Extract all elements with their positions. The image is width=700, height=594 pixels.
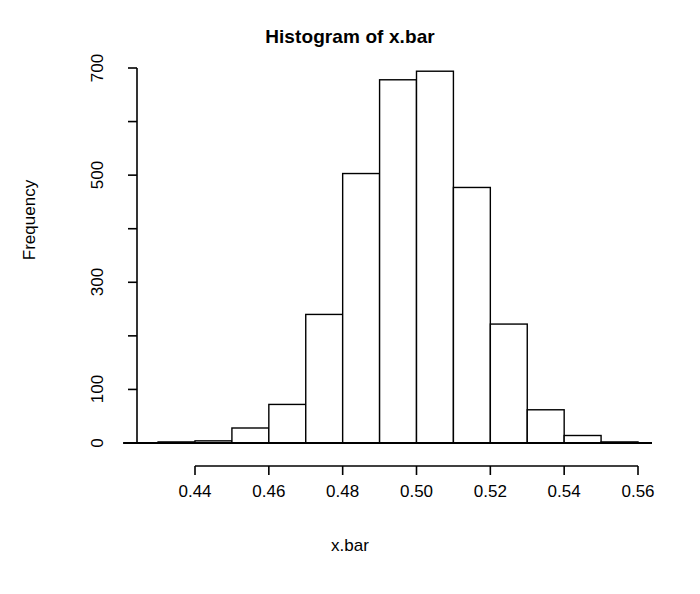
y-tick-label: 0 (88, 413, 108, 473)
x-tick-label: 0.50 (382, 482, 452, 502)
x-tick-label: 0.56 (603, 482, 673, 502)
x-tick-label: 0.44 (160, 482, 230, 502)
y-tick-label: 300 (88, 252, 108, 312)
x-tick-label: 0.54 (529, 482, 599, 502)
histogram-bar (453, 187, 490, 443)
histogram-bar (527, 410, 564, 443)
histogram-bar (417, 71, 454, 443)
histogram-bar (269, 404, 306, 443)
histogram-figure: Histogram of x.bar Frequency x.bar 01003… (0, 0, 700, 594)
x-tick-label: 0.48 (308, 482, 378, 502)
histogram-bar (343, 174, 380, 443)
y-tick-label: 700 (88, 38, 108, 98)
histogram-bars (158, 71, 638, 443)
histogram-bar (490, 324, 527, 443)
x-tick-label: 0.52 (455, 482, 525, 502)
histogram-bar (232, 428, 269, 443)
y-tick-label: 500 (88, 145, 108, 205)
histogram-bar (306, 314, 343, 443)
y-tick-label: 100 (88, 359, 108, 419)
x-tick-label: 0.46 (234, 482, 304, 502)
x-axis (195, 466, 638, 475)
y-axis (128, 68, 137, 443)
histogram-bar (380, 80, 417, 443)
histogram-bar (564, 436, 601, 444)
